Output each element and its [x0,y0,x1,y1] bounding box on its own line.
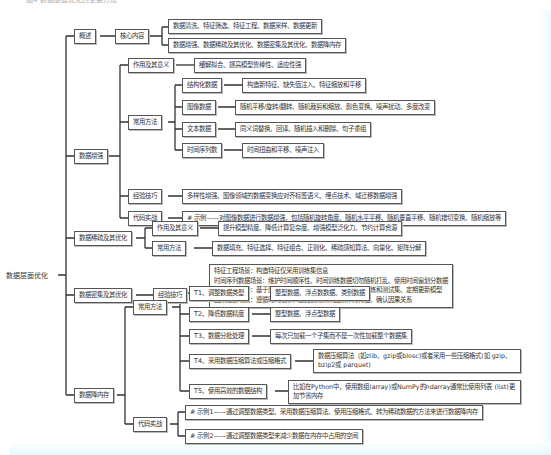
sparse-node: 数据稀疏及其优化 [74,231,132,246]
core-content-node: 核心内容 [115,29,149,44]
aug-method-timeseries-detail: 时间扭曲和平移、噪声注入 [242,143,324,158]
dense-node: 数据密集及其优化 [74,288,132,303]
sparse-methods-label: 常用方法 [152,241,186,256]
memory-node: 数据降内存 [74,388,114,403]
mem-method-t1-detail: 整型数据、浮点数数据、类别数据 [270,286,370,301]
aug-method-structured: 结构化数据 [182,78,222,93]
mem-methods-label: 常用方法 [133,300,167,315]
aug-method-text-detail: 同义词替换、回译、随机插入和删除、句子重组 [235,122,371,137]
mem-method-t5: T5、使用高效的数据结构 [189,384,267,399]
dense-tip-2: 时间序列数据场景：维护时间顺序性、时间训练数据切勿随机打乱、使用时间窗划分数据 [214,277,448,287]
aug-tips-label: 经验技巧 [128,189,162,204]
mem-method-t1: T1、调整数据类型 [189,286,249,301]
aug-method-timeseries: 时间序列数 [182,143,222,158]
aug-purpose: 缓解拟合、提高模型鲁棒性、适应性强 [194,58,306,73]
aug-purpose-label: 作用及其意义 [128,58,174,73]
mem-method-t2-detail: 整型数据、浮点型数据 [270,307,340,322]
mem-code-1: # 示例1——通过调整数据类型、采用数据压缩算法、使用压缩格式、转为稀疏数据的方… [185,405,483,420]
mem-method-t4-detail: 数据压缩算法（如zlib、gzip或blosc)或者采用一些压缩格式(如 gzi… [313,349,521,373]
aug-tips: 多样性增强、图像领域的数据变换应对齐标签语义、埋点技术、域迁移数据增强 [182,189,402,204]
mem-method-t3-detail: 每次只加载一个子集而不是一次性加载整个数据集 [270,329,412,344]
mem-method-t5-detail: 比如在Python中，使用数组(array)或NumPy的ndarray通常比使… [288,380,521,404]
mem-method-t3: T3、数据分批处理 [189,329,249,344]
dense-tip-1: 特征工程场景：构造特征仅采用训练集信息 [214,267,448,277]
aug-methods-label: 常用方法 [128,115,162,130]
aug-method-image: 图像数据 [182,100,216,115]
aug-method-image-detail: 随机平移/旋转/翻转、随机裁剪和缩放、颜色变换、噪声扰动、多度改变 [235,100,435,115]
mem-code-2: # 示例2——通过调整数据类型来减少数据在内存中占用的空间 [185,429,363,444]
aug-method-text: 文本数据 [182,122,216,137]
sparse-purpose: 提升模型精度、降低计算复杂度、增强模型泛化力、节约计算资源 [218,221,402,236]
mem-method-t2: T2、降低数据精度 [189,307,249,322]
mem-code-label: 代码实战 [133,417,167,432]
overview-node: 概述 [74,29,96,44]
augmentation-node: 数据增强 [74,149,108,164]
sparse-purpose-label: 作用及其意义 [152,221,198,236]
overview-item-2: 数据增强、数据稀疏及其优化、数据密集及其优化、数据降内存 [168,38,346,53]
aug-method-structured-detail: 构造新特征、缺失值注入、特征缩放和平移 [242,78,366,93]
sparse-methods: 数据填充、特征选择、特征组合、正则化、稀疏感知算法、向量化、矩阵分解 [212,241,426,256]
overview-item-1: 数据清洗、特征筛选、特征工程、数据采样、数据更新 [168,19,322,34]
root-node: 数据层面优化 [6,270,48,280]
mem-method-t4: T4、采用数据压缩算法或压缩格式 [189,354,291,369]
